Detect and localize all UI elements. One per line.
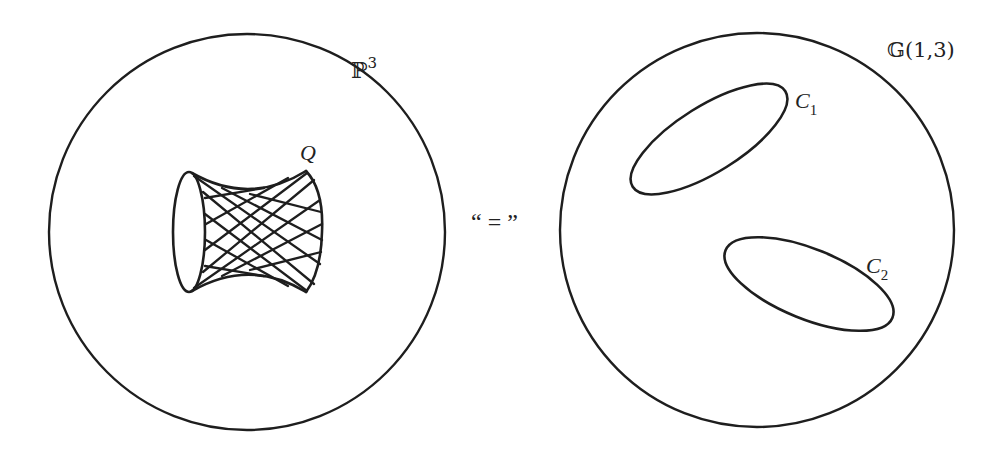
curve-c2-ellipse (712, 218, 905, 350)
p3-space-circle (49, 34, 445, 430)
p3-label-superscript: 3 (368, 54, 378, 72)
curve-c1-label: C1 (795, 88, 817, 118)
curve-c1-label-subscript: 1 (810, 102, 818, 118)
quadric-label-q: Q (300, 140, 316, 165)
curve-c1-label-base: C (795, 88, 810, 113)
curve-c2: C2 (712, 218, 905, 350)
curve-c2-label-base: C (866, 253, 881, 278)
curve-c1: C1 (615, 63, 817, 214)
quadric-surface-q: Q (173, 140, 322, 292)
diagram-canvas: ℙ3 (0, 0, 1000, 454)
right-panel-grassmannian: 𝔾(1,3) C1 C2 (560, 33, 955, 427)
quadric-left-rim (173, 172, 205, 292)
p3-label-base: ℙ (351, 58, 368, 83)
grassmannian-space-circle (560, 33, 954, 427)
quoted-equals-relation: “ = ” (471, 209, 518, 235)
left-panel-p3: ℙ3 (49, 34, 445, 430)
grassmannian-label: 𝔾(1,3) (887, 38, 955, 62)
curve-c2-label-subscript: 2 (881, 267, 889, 283)
curve-c1-ellipse (615, 63, 803, 214)
